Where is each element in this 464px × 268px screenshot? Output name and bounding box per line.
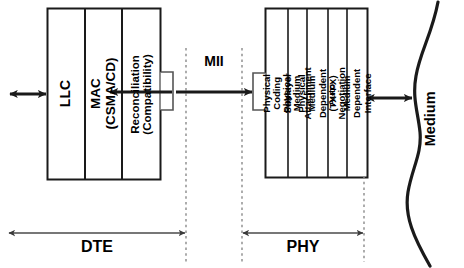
phy-stack-box: [266, 9, 368, 178]
medium-curve: [407, 2, 438, 266]
dte-stack-box: [48, 9, 161, 180]
dte-span-label: DTE: [62, 238, 132, 256]
phy-mii-connector-tab: [253, 73, 266, 110]
diagram-vector-layer: [0, 0, 464, 268]
diagram-canvas: LLC MAC (CSMA/CD) Reconciliation (Compat…: [0, 0, 464, 268]
mii-label: MII: [190, 53, 238, 69]
phy-span-label: PHY: [268, 238, 338, 256]
